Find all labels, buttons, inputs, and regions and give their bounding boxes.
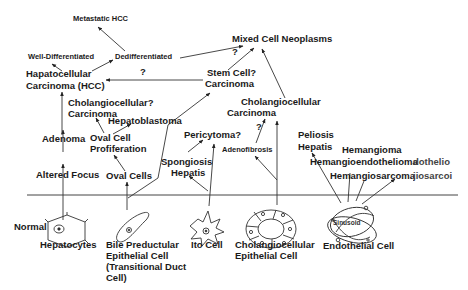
label-ito-cell: Ito Cell — [191, 240, 223, 251]
uncertain-mark-stem-to-hcc: ? — [140, 67, 146, 78]
label-hcc-line1: Hapatocellular — [26, 69, 91, 80]
label-normal: Normal — [14, 222, 47, 233]
label-ghost-endothelioma: dothelio — [413, 157, 468, 168]
arrow-ito-to-pericytoma — [209, 144, 214, 206]
arrow-cholangio-carcinoma-to-mixed — [262, 49, 285, 98]
bile-preductular-cell-icon — [117, 212, 149, 242]
label-pericytoma: Pericytoma? — [184, 130, 241, 141]
label-well-differentiated: Well-Differentiated — [28, 53, 94, 62]
label-bile-preductular-line4: Cell) — [106, 273, 127, 284]
label-peliosis-line2: Hepatis — [298, 142, 332, 153]
arrow-spongiosis-to-pericytoma — [188, 140, 203, 152]
label-hepatoblastoma: Hepatoblastoma — [108, 116, 182, 127]
uncertain-mark-adenofibrosis: ? — [256, 122, 262, 133]
label-altered-focus: Altered Focus — [36, 170, 99, 181]
label-adenoma: Adenoma — [42, 134, 85, 145]
label-hemangiosarcoma: Hemangiosarcoma — [330, 171, 415, 182]
arrow-cholangio-cell-to-adenofibrosis — [255, 156, 277, 180]
arrow-endothelial-to-hemangiosarcoma — [362, 179, 395, 204]
arrow-dedifferentiated-to-metastatic — [98, 27, 125, 51]
label-spongiosis-line2: Hepatis — [171, 168, 205, 179]
arrow-endothelial-to-hemangioma — [356, 181, 364, 201]
label-dedifferentiated: Dedifferentiated — [115, 53, 172, 62]
label-hcc-line2: Carcinoma (HCC) — [26, 81, 105, 92]
label-sinusoid: Sinusoid — [333, 219, 360, 226]
label-hemangioma: Hemangioma — [342, 145, 402, 156]
label-metastatic-hcc: Metastatic HCC — [73, 15, 128, 24]
label-mixed-cell-neoplasms: Mixed Cell Neoplasms — [232, 34, 332, 45]
uncertain-mark-dediff-to-mixed: ? — [232, 47, 238, 58]
arrow-oval-cells-to-proliferation — [114, 155, 125, 171]
label-oval-cells: Oval Cells — [106, 171, 152, 182]
label-cholangio-carcinoma-line2: Carcinoma — [227, 108, 276, 119]
label-hepatocytes: Hepatocytes — [40, 240, 97, 251]
label-peliosis-line1: Peliosis — [298, 130, 334, 141]
label-cholangio-epithelial-line2: Epithelial Cell — [235, 251, 297, 262]
arrow-hcc-to-dedifferentiated — [92, 60, 113, 71]
arrow-oval-proliferation-to-cholangio-q — [96, 118, 104, 133]
label-oval-cell-proliferation-line2: Profiferation — [90, 144, 146, 155]
label-hemangioendothelioma: Hemangioendothelioma — [310, 157, 418, 168]
label-adenofibrosis: Adenofibrosis — [222, 146, 272, 155]
label-endothelial-cell: Endothelial Cell — [323, 241, 394, 252]
label-ghost-sarcoma: jiosarcoi — [413, 171, 468, 182]
label-stem-cell-line2: Carcinoma — [205, 79, 254, 90]
